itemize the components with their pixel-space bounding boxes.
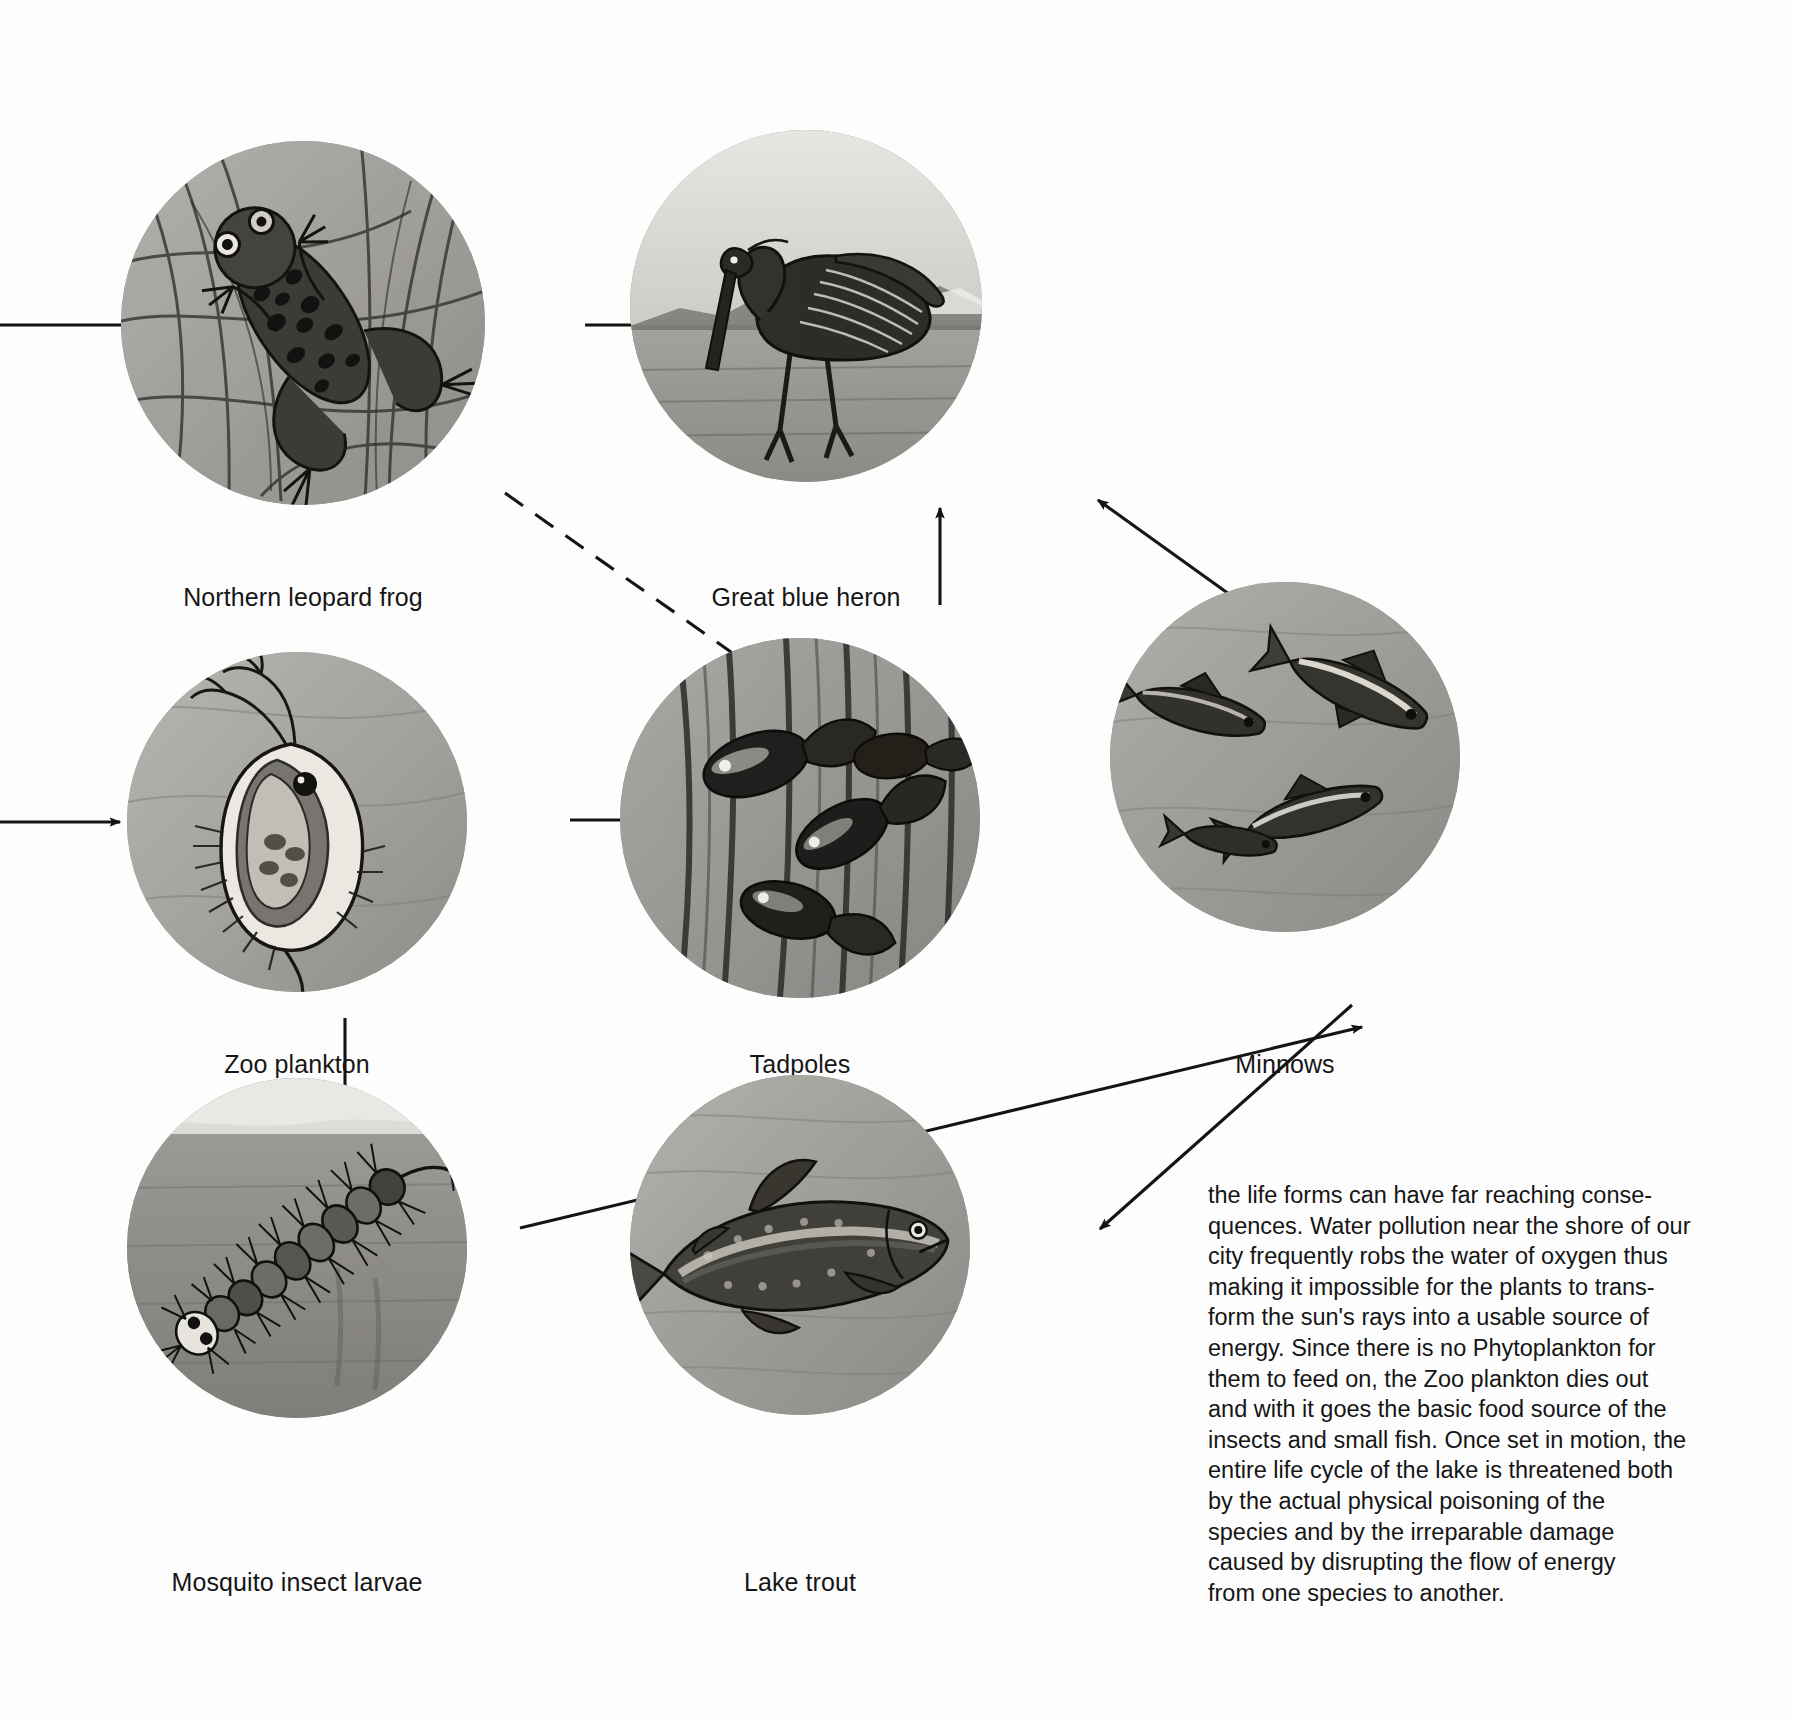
- caption-northern-leopard-frog: Northern leopard frog: [103, 583, 503, 612]
- lake-trout-photo: [630, 1075, 970, 1415]
- body-line: energy. Since there is no Phytoplankton …: [1208, 1333, 1713, 1364]
- body-line: entire life cycle of the lake is threate…: [1208, 1455, 1713, 1486]
- body-line: from one species to another.: [1208, 1578, 1713, 1609]
- body-line: by the actual physical poisoning of the: [1208, 1486, 1713, 1517]
- body-line: the life forms can have far reaching con…: [1208, 1180, 1713, 1211]
- caption-minnows: Minnows: [1165, 1050, 1405, 1079]
- body-line: and with it goes the basic food source o…: [1208, 1394, 1713, 1425]
- body-line: form the sun's rays into a usable source…: [1208, 1302, 1713, 1333]
- body-line: quences. Water pollution near the shore …: [1208, 1211, 1713, 1242]
- three-minnows-photo: [1110, 582, 1460, 932]
- caption-lake-trout: Lake trout: [680, 1568, 920, 1597]
- heron-wading-photo: [630, 130, 982, 482]
- caption-great-blue-heron: Great blue heron: [646, 583, 966, 612]
- pollution-explanation-text: the life forms can have far reaching con…: [1208, 1180, 1713, 1608]
- body-line: them to feed on, the Zoo plankton dies o…: [1208, 1364, 1713, 1395]
- daphnia-zooplankton-photo: [127, 652, 467, 992]
- body-line: city frequently robs the water of oxygen…: [1208, 1241, 1713, 1272]
- caption-zoo-plankton: Zoo plankton: [147, 1050, 447, 1079]
- body-line: species and by the irreparable damage: [1208, 1517, 1713, 1548]
- food-web-diagram: Northern leopard frog: [0, 0, 1795, 1719]
- tadpoles-in-reeds-photo: [620, 638, 980, 998]
- body-line: insects and small fish. Once set in moti…: [1208, 1425, 1713, 1456]
- mosquito-larva-photo: [127, 1078, 467, 1418]
- frog-in-reeds-photo: [121, 141, 485, 505]
- body-line: caused by disrupting the flow of energy: [1208, 1547, 1713, 1578]
- body-line: making it impossible for the plants to t…: [1208, 1272, 1713, 1303]
- caption-mosquito-insect-larvae: Mosquito insect larvae: [97, 1568, 497, 1597]
